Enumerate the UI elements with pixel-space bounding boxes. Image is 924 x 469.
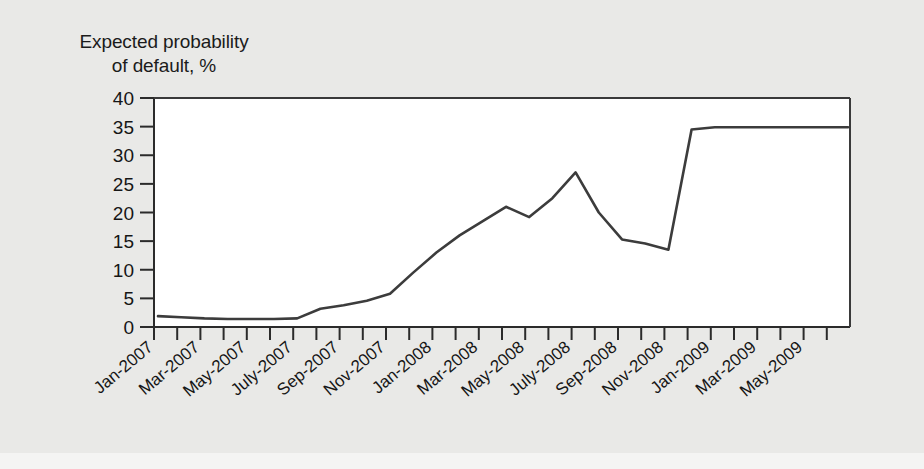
x-axis-ticks [154,327,827,340]
plot-area-background [154,98,850,327]
y-tick-label: 30 [113,145,134,166]
y-tick-label: 0 [123,317,134,338]
y-tick-label: 5 [123,288,134,309]
y-tick-label: 25 [113,174,134,195]
y-tick-label: 10 [113,260,134,281]
line-chart-plot: 0510152025303540 Jan-2007Mar-2007May-200… [0,0,924,469]
chart-figure: Expected probabilityof default, % 051015… [0,0,924,469]
y-tick-label: 40 [113,88,134,109]
y-axis-labels: 0510152025303540 [113,88,134,338]
y-tick-label: 35 [113,117,134,138]
x-axis-labels: Jan-2007Mar-2007May-2007July-2007Sep-200… [90,338,806,401]
bottom-edge [0,453,924,469]
y-tick-label: 20 [113,203,134,224]
y-axis-ticks [140,98,154,327]
y-tick-label: 15 [113,231,134,252]
